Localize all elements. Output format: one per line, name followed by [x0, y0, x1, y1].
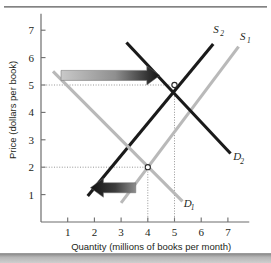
- curve-label-subscript: 1: [191, 203, 195, 212]
- curve-label-d2: D2: [232, 150, 244, 166]
- supply-demand-chart: 12345671234567Quantity (millions of book…: [0, 0, 271, 263]
- curve-label-subscript: 2: [220, 29, 224, 38]
- x-tick-label: 6: [198, 226, 204, 238]
- x-tick-label: 3: [118, 226, 124, 238]
- new-equilibrium-marker: [172, 82, 177, 87]
- curve-d1: [53, 71, 182, 201]
- x-axis-title: Quantity (millions of books per month): [71, 241, 231, 252]
- x-tick-label: 4: [145, 226, 151, 238]
- curve-label-text: S: [213, 23, 219, 35]
- y-tick-label: 1: [29, 189, 35, 201]
- top-rule-divider: [4, 6, 267, 8]
- y-axis-title: Price (dollars per book): [7, 61, 18, 159]
- curve-label-subscript: 1: [247, 36, 251, 45]
- curve-label-subscript: 2: [240, 157, 244, 166]
- original-equilibrium-marker: [145, 165, 150, 170]
- bottom-gray-band: [0, 254, 271, 263]
- y-tick-label: 7: [29, 24, 35, 36]
- x-tick-label: 5: [172, 226, 178, 238]
- x-tick-label: 1: [65, 226, 71, 238]
- y-tick-label: 5: [29, 79, 35, 91]
- y-tick-label: 2: [29, 161, 35, 173]
- curve-label-s1: S1: [240, 30, 251, 46]
- y-tick-label: 4: [29, 106, 35, 118]
- y-tick-label: 6: [29, 52, 35, 64]
- curve-label-d1: D1: [183, 197, 195, 213]
- x-tick-label: 2: [92, 226, 98, 238]
- x-tick-label: 7: [225, 226, 231, 238]
- price-increase-arrow: [61, 66, 160, 85]
- curve-label-text: S: [240, 30, 246, 42]
- y-tick-label: 3: [29, 134, 35, 146]
- curve-d2: [126, 43, 230, 154]
- curve-label-s2: S2: [213, 23, 224, 39]
- figure-container: 12345671234567Quantity (millions of book…: [0, 0, 271, 263]
- curve-s1: [121, 47, 238, 203]
